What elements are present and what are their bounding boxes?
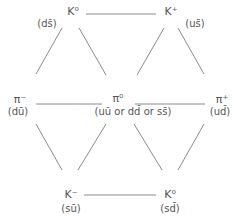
pi-minus-symbol: π⁻ — [14, 94, 26, 105]
pi-minus-quarks: (dū) — [8, 106, 29, 117]
k0-top-quarks: (ds̄) — [37, 18, 56, 29]
k-plus-symbol: K⁺ — [164, 6, 177, 17]
k-plus-quarks: (us̄) — [185, 18, 204, 29]
k0-top-symbol: K⁰ — [67, 6, 79, 17]
pi-plus-symbol: π⁺ — [216, 94, 228, 105]
pi-plus-quarks: (ud̄) — [210, 106, 231, 117]
k0-bottom-quarks: (sd̄) — [160, 203, 179, 214]
k-minus-symbol: K⁻ — [64, 189, 77, 200]
pi-zero-quarks: (uū or dd̄ or ss̄) — [95, 106, 172, 117]
pi-zero-symbol: π⁰ — [112, 93, 123, 104]
k0-bottom-symbol: K⁰ — [164, 189, 176, 200]
k-minus-quarks: (sū) — [61, 203, 80, 214]
